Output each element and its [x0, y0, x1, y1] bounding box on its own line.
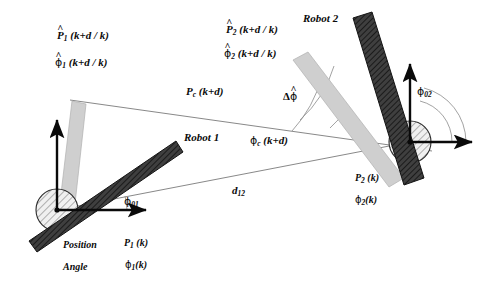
- hat-accent-icon: ^: [57, 24, 63, 34]
- label-robot1-position: P1 (k): [124, 238, 148, 250]
- diagram-canvas: ^P1 (k+d / k) ^ϕ1 (k+d / k) ^P2 (k+d / k…: [0, 0, 486, 288]
- label-robot2-angle: ϕ2(k): [355, 195, 377, 207]
- label-centroid-angle: ϕc (k+d): [250, 135, 288, 148]
- hat-accent-icon: ^: [225, 42, 231, 52]
- label-robot-2-title: Robot 2: [303, 13, 338, 24]
- label-robot1-predicted-position: ^P1 (k+d / k): [57, 30, 109, 43]
- label-robot1-predicted-angle: ^ϕ1 (k+d / k): [55, 57, 107, 70]
- robot-2-group: [293, 12, 472, 187]
- label-centroid-position: Pc (k+d): [186, 86, 223, 99]
- label-robot2-predicted-position: ^P2 (k+d / k): [226, 24, 278, 37]
- label-phi-02: ϕ02: [417, 86, 432, 99]
- robot-1-group: [29, 101, 183, 252]
- hat-accent-icon: ^: [226, 18, 232, 28]
- label-phi-01: ϕ01: [124, 196, 139, 209]
- hat-accent-icon: ^: [56, 51, 62, 61]
- label-robot2-position: P2 (k): [355, 173, 379, 185]
- hat-accent-icon: ^: [290, 85, 296, 95]
- label-distance-d12: d12: [232, 185, 245, 198]
- label-robot-1-title: Robot 1: [184, 132, 219, 143]
- robot-2-center-point: [407, 139, 412, 144]
- label-robot2-predicted-angle: ^ϕ2 (k+d / k): [224, 48, 276, 61]
- label-delta-phi: Δ^ϕ: [283, 91, 297, 102]
- robot-1-center-point: [54, 207, 59, 212]
- label-position-word: Position: [63, 240, 97, 250]
- label-robot1-angle: ϕ1(k): [125, 260, 147, 272]
- label-angle-word: Angle: [63, 262, 87, 272]
